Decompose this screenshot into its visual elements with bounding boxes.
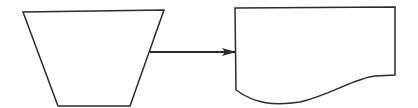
trapezoid-manual-operation-shape xyxy=(23,10,164,106)
document-shape xyxy=(235,7,395,104)
flowchart-diagram xyxy=(0,0,418,108)
